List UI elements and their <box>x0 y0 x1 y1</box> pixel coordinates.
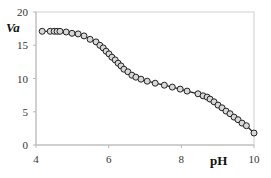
data-point-marker <box>81 33 87 39</box>
y-tick-label: 0 <box>23 139 29 151</box>
data-point-marker <box>144 78 150 84</box>
x-tick-label: 6 <box>106 153 112 165</box>
data-point-marker <box>138 76 144 82</box>
data-point-marker <box>63 29 69 35</box>
data-point-marker <box>39 28 45 34</box>
data-point-marker <box>69 30 75 36</box>
x-tick-label: 10 <box>249 153 261 165</box>
x-tick-label: 4 <box>33 153 39 165</box>
data-point-marker <box>251 130 257 136</box>
data-point-marker <box>87 36 93 42</box>
data-point-marker <box>177 86 183 92</box>
va-vs-ph-chart: 05101520 46810 Va pH <box>0 0 271 178</box>
y-tick-label: 20 <box>17 6 29 18</box>
y-tick-label: 15 <box>17 39 29 51</box>
y-tick-label: 10 <box>17 73 29 85</box>
data-point-marker <box>152 80 158 86</box>
data-point-marker <box>57 28 63 34</box>
y-axis-title: Va <box>6 20 20 35</box>
data-point-marker <box>169 84 175 90</box>
data-point-marker <box>184 88 190 94</box>
series-markers <box>39 28 257 136</box>
data-point-marker <box>75 31 81 37</box>
data-point-marker <box>243 123 249 129</box>
x-tick-label: 8 <box>179 153 185 165</box>
data-point-marker <box>161 82 167 88</box>
y-axis-ticks: 05101520 <box>17 6 36 151</box>
y-tick-label: 5 <box>23 106 29 118</box>
x-axis-title: pH <box>210 153 227 168</box>
